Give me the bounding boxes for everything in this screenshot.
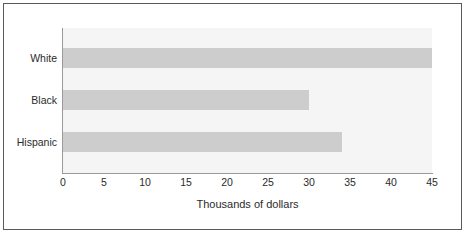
bar-fill [63,132,342,152]
bar-fill [63,90,309,110]
x-tick-label: 20 [212,176,242,188]
x-tick-label: 45 [417,176,447,188]
x-tick-label: 0 [48,176,78,188]
y-tick-label-text: White [1,48,57,68]
x-tick-label: 35 [335,176,365,188]
x-tick-label: 30 [294,176,324,188]
y-tick-label-2: Hispanic [0,132,57,152]
y-tick-label-text: Black [1,90,57,110]
x-tick-label: 15 [171,176,201,188]
y-tick-label-0: White [0,48,57,68]
x-tick-label: 40 [376,176,406,188]
chart-figure: White Black Hispanic 051015202530354045 … [0,0,465,233]
x-tick-label: 10 [130,176,160,188]
x-axis-line [62,173,433,174]
y-tick-label-text: Hispanic [1,132,57,152]
x-tick-label: 25 [253,176,283,188]
x-axis-title: Thousands of dollars [63,198,432,210]
x-tick-label: 5 [89,176,119,188]
bar-fill [63,48,432,68]
y-tick-label-1: Black [0,90,57,110]
